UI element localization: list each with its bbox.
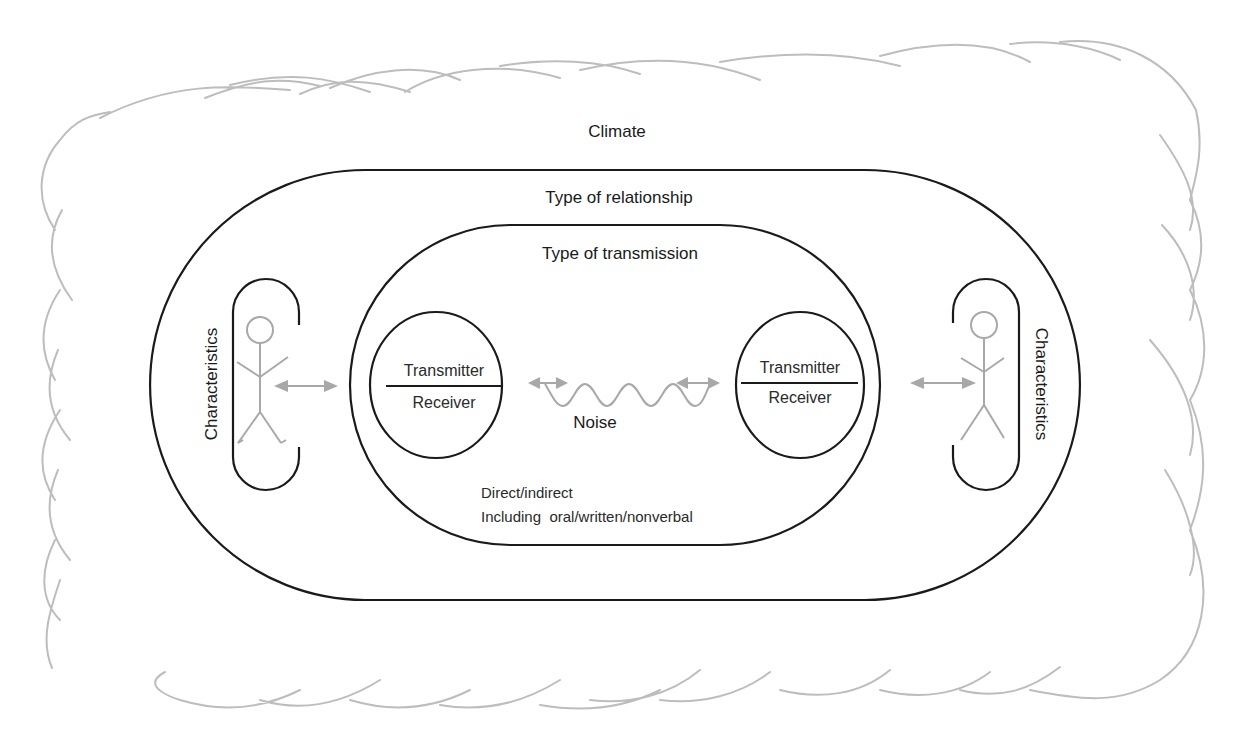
right-person-icon	[961, 312, 1004, 440]
right-transmitter-receiver-node: Transmitter Receiver	[736, 312, 864, 458]
left-person-container	[233, 279, 299, 490]
left-bidirectional-arrow-icon	[274, 380, 338, 392]
right-bidirectional-arrow-icon	[910, 377, 976, 389]
svg-text:Transmitter: Transmitter	[760, 359, 841, 376]
noise-label: Noise	[573, 413, 616, 432]
right-characteristics-label: Characteristics	[1032, 328, 1051, 440]
transmission-label: Type of transmission	[542, 244, 698, 263]
left-person-icon	[237, 317, 288, 443]
transmission-note-1: Direct/indirect	[481, 484, 574, 501]
communication-model-diagram: Climate Type of relationship Type of tra…	[0, 0, 1254, 753]
svg-text:Receiver: Receiver	[412, 394, 476, 411]
left-characteristics-label: Characteristics	[202, 328, 221, 440]
noise-wave	[528, 377, 720, 406]
climate-label: Climate	[588, 122, 646, 141]
transmission-note-2: Including oral/written/nonverbal	[481, 508, 693, 525]
relationship-label: Type of relationship	[545, 188, 692, 207]
svg-text:Receiver: Receiver	[768, 389, 832, 406]
svg-text:Transmitter: Transmitter	[404, 362, 485, 379]
left-transmitter-receiver-node: Transmitter Receiver	[370, 312, 503, 458]
